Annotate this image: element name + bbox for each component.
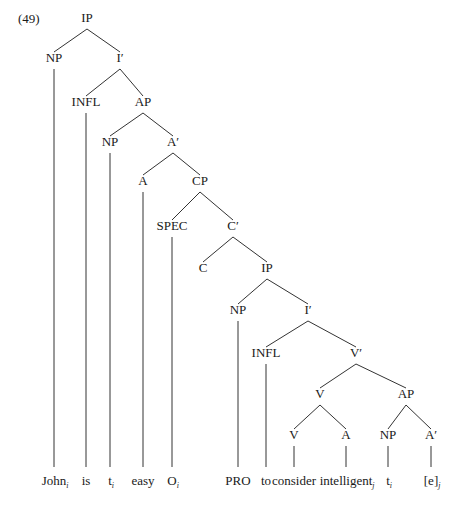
tree-leaf: Johni [42,474,69,488]
tree-branch [110,113,143,136]
tree-node-np1: NP [46,51,63,65]
tree-branch [203,237,233,262]
tree-leaf: ti [108,474,114,488]
tree-leaf: is [82,474,91,488]
tree-node-abar1: A′ [167,135,179,149]
tree-node-ip1: IP [81,11,93,25]
index-subscript: i [112,481,114,490]
index-subscript: i [177,481,179,490]
tree-node-infl2: INFL [252,346,281,360]
tree-branch [267,279,308,304]
tree-node-vbar: V′ [350,346,362,360]
tree-branch [406,405,431,429]
tree-node-abar2: A′ [425,428,437,442]
tree-node-ibar2: I′ [304,303,311,317]
tree-node-ibar1: I′ [116,51,123,65]
tree-branch [120,69,143,96]
tree-leaf: easy [131,474,154,488]
tree-branch [294,405,320,429]
tree-branch [86,69,120,96]
tree-node-ap2: AP [398,387,415,401]
tree-branch [320,364,356,388]
tree-branch [143,153,173,175]
tree-branch [143,113,173,136]
tree-branch [308,321,356,347]
tree-node-cbar: C′ [227,219,239,233]
tree-node-infl1: INFL [72,95,101,109]
tree-leaf: ti [386,474,392,488]
index-subscript: i [66,481,68,490]
tree-node-ap1: AP [135,95,152,109]
tree-node-np3: NP [230,303,247,317]
index-subscript: i [390,481,392,490]
tree-node-np2: NP [102,135,119,149]
tree-branch [173,153,200,175]
tree-branch [54,29,87,52]
index-subscript: j [372,481,374,490]
tree-branch [172,192,200,220]
tree-branch [266,321,308,347]
tree-node-c: C [199,261,208,275]
tree-branch [87,29,120,52]
tree-node-np4: NP [380,428,397,442]
tree-branch [200,192,233,220]
tree-leaf: Oi [167,474,179,488]
tree-branch [388,405,406,429]
tree-leaf: [e]j [424,474,441,488]
tree-node-v1: V [315,387,324,401]
tree-leaf: PRO [225,474,250,488]
tree-branch [356,364,406,388]
index-subscript: j [438,481,440,490]
tree-node-a1: A [138,174,147,188]
tree-leaf: intelligentj [320,474,375,488]
tree-branch [320,405,346,429]
tree-leaf: consider [272,474,316,488]
tree-node-v2: V [289,428,298,442]
tree-node-spec: SPEC [156,219,187,233]
tree-node-cp: CP [192,174,208,188]
tree-leaf: to [261,474,271,488]
tree-node-ip2: IP [261,261,273,275]
tree-node-a2: A [341,428,350,442]
tree-branch [233,237,267,262]
tree-branch [238,279,267,304]
